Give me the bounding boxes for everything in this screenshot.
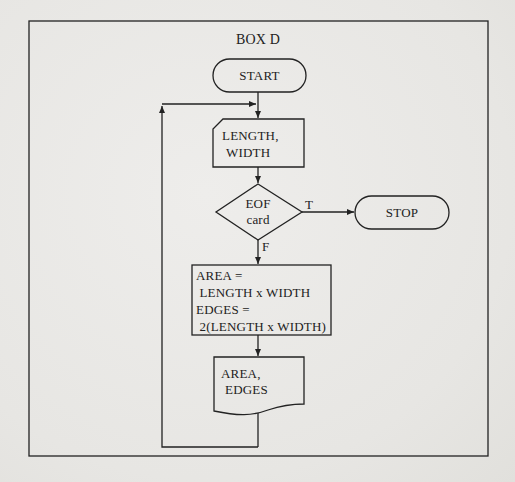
output-label-line-1: AREA, — [221, 365, 261, 382]
edge-label-false: F — [262, 238, 269, 255]
decision-label-line-2: card — [228, 211, 288, 228]
process-label-line-1: AREA = — [196, 267, 242, 284]
process-label-line-2: LENGTH x WIDTH — [196, 284, 310, 301]
diagram-title: BOX D — [208, 31, 308, 48]
decision-label-line-1: EOF — [228, 195, 288, 212]
stop-label: STOP — [355, 204, 449, 221]
process-label-line-3: EDGES = — [196, 301, 250, 318]
edge-label-true: T — [305, 196, 313, 213]
output-label-line-2: EDGES — [225, 381, 268, 398]
input-label-line-2: WIDTH — [226, 144, 270, 161]
process-label-line-4: 2(LENGTH x WIDTH) — [196, 318, 326, 335]
start-label: START — [213, 67, 306, 84]
input-label-line-1: LENGTH, — [222, 127, 279, 144]
